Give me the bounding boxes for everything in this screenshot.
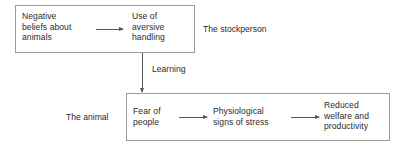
node-physiological-signs: Physiological signs of stress [213,106,291,127]
edge-label-learning: Learning [152,64,185,75]
arrow-fear-to-physiological [179,117,207,118]
group-label-stockperson: The stockperson [203,24,267,35]
group-label-animal: The animal [66,112,109,123]
node-reduced-welfare: Reduced welfare and productivity [324,100,388,132]
diagram-canvas: Negative beliefs about animals Use of av… [0,0,403,149]
node-negative-beliefs: Negative beliefs about animals [22,11,94,43]
arrow-physiological-to-welfare [291,117,319,118]
arrow-beliefs-to-handling [96,29,123,30]
arrow-handling-to-fear [142,53,143,92]
node-aversive-handling: Use of aversive handling [132,11,192,43]
node-fear-of-people: Fear of people [133,106,181,127]
